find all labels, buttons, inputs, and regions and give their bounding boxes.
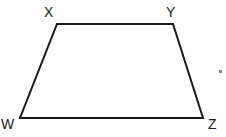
vertex-label-z: Z [208,117,217,131]
vertex-label-y: Y [166,5,175,19]
geometry-figure-canvas: X Y Z W [0,0,226,137]
vertex-label-w: W [1,117,14,131]
vertex-label-x: X [44,5,53,19]
stray-dot-mark [219,70,222,73]
trapezoid-outline [20,24,203,118]
trapezoid-drawing [0,0,226,137]
